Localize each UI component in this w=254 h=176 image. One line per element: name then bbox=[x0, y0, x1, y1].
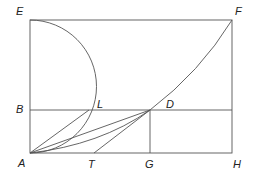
label-E: E bbox=[16, 6, 23, 17]
label-A: A bbox=[18, 158, 25, 169]
label-L: L bbox=[97, 99, 103, 110]
outer-rectangle bbox=[30, 20, 232, 153]
label-F: F bbox=[235, 6, 242, 17]
label-G: G bbox=[145, 159, 154, 170]
label-T: T bbox=[88, 159, 95, 170]
curve-ADF bbox=[30, 20, 232, 153]
tangent-TD bbox=[94, 110, 150, 153]
label-H: H bbox=[233, 159, 241, 170]
geometry-diagram bbox=[0, 0, 254, 176]
label-B: B bbox=[16, 104, 23, 115]
label-D: D bbox=[166, 99, 174, 110]
